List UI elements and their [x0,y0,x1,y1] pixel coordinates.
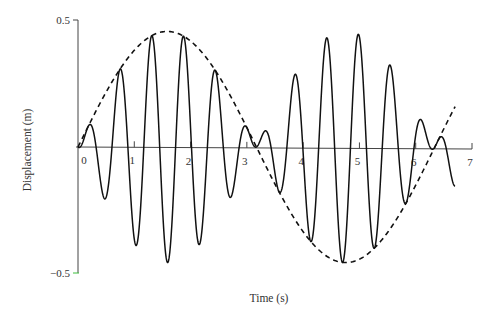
y-tick-label-neg-0.5: −0.5 [50,267,70,279]
x-tick-label-0: 0 [81,154,87,166]
x-axis-line [76,147,472,149]
y-axis: 0.5 −0.5 [50,14,79,279]
x-tick-label-5: 5 [355,155,361,167]
y-axis-title: Displacement (m) [21,108,34,191]
y-tick-label-0.5: 0.5 [56,14,70,26]
x-tick-label-7: 7 [467,156,473,168]
x-axis-title: Time (s) [250,292,289,305]
x-tick-label-2: 2 [186,155,192,167]
chart: 0.5 −0.5 01234567 Displacement (m) Time … [0,0,491,312]
x-tick-label-1: 1 [130,154,136,166]
x-tick-label-3: 3 [242,155,248,167]
